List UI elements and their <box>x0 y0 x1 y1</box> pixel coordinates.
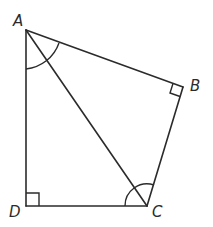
vertex-label-c: C <box>152 203 163 221</box>
angle-arc-a <box>26 43 59 69</box>
diagonal-ac <box>26 30 147 206</box>
vertex-label-b: B <box>190 77 200 95</box>
vertex-label-d: D <box>9 203 21 221</box>
vertex-label-a: A <box>12 12 23 30</box>
quadrilateral-diagram: A B C D <box>0 0 213 227</box>
edge-bc <box>147 87 183 206</box>
right-angle-marker-d <box>26 193 39 206</box>
